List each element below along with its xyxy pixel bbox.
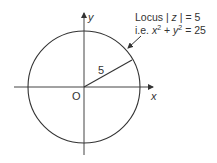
radius-label: 5 <box>98 64 104 76</box>
x-axis-label: x <box>150 90 157 102</box>
annotation-line-2: i.e. x2 + y2 = 25 <box>135 24 206 36</box>
origin-label: O <box>72 90 81 102</box>
locus-diagram: y x O 5 Locus | z | = 5 i.e. x2 + y2 = 2… <box>0 0 217 163</box>
annotation-line-1: Locus | z | = 5 <box>135 11 200 23</box>
y-axis-label: y <box>87 11 95 23</box>
radius-line <box>84 60 132 87</box>
annotation-arrow <box>128 36 141 48</box>
